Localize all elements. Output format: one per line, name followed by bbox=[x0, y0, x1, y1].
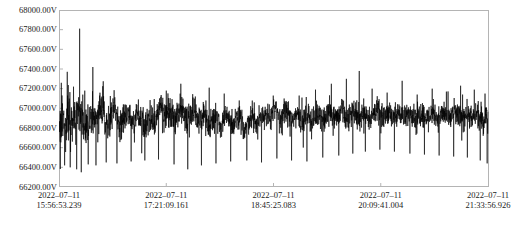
x-axis-tick-label: 2022–07–1118:45:25.083 bbox=[226, 190, 322, 210]
x-axis-tick-date: 2022–07–11 bbox=[226, 190, 322, 200]
y-axis-tick-label: 67400.00V bbox=[0, 65, 57, 74]
plot-frame bbox=[60, 11, 489, 187]
y-axis-tick-label: 67200.00V bbox=[0, 84, 57, 93]
voltage-chart: 66200.00V66400.00V66600.00V66800.00V6700… bbox=[0, 0, 512, 225]
plot-svg bbox=[59, 10, 489, 187]
y-axis-tick-label: 67600.00V bbox=[0, 45, 57, 54]
x-axis-tick-date: 2022–07–11 bbox=[11, 190, 107, 200]
y-axis-tick-label: 67000.00V bbox=[0, 104, 57, 113]
x-axis-tick-date: 2022–07–11 bbox=[440, 190, 512, 200]
x-axis-tick-label: 2022–07–1120:09:41.004 bbox=[333, 190, 429, 210]
y-axis-tick-label: 67800.00V bbox=[0, 25, 57, 34]
y-axis-tick-label: 66400.00V bbox=[0, 163, 57, 172]
x-axis-tick-label: 2022–07–1121:33:56.926 bbox=[440, 190, 512, 210]
data-series-line bbox=[59, 29, 488, 173]
y-axis-tick-label: 68000.00V bbox=[0, 6, 57, 15]
x-axis-tick-label: 2022–07–1115:56:53.239 bbox=[11, 190, 107, 210]
x-axis-tick-date: 2022–07–11 bbox=[333, 190, 429, 200]
x-axis-tick-label: 2022–07–1117:21:09.161 bbox=[118, 190, 214, 210]
x-axis-tick-time: 17:21:09.161 bbox=[118, 200, 214, 210]
plot-area[interactable] bbox=[59, 10, 489, 187]
y-axis-tick-label: 66800.00V bbox=[0, 124, 57, 133]
x-axis-tick-time: 20:09:41.004 bbox=[333, 200, 429, 210]
x-axis-tick-date: 2022–07–11 bbox=[118, 190, 214, 200]
x-axis-tick-time: 15:56:53.239 bbox=[11, 200, 107, 210]
x-axis-tick-time: 18:45:25.083 bbox=[226, 200, 322, 210]
y-axis-tick-label: 66600.00V bbox=[0, 143, 57, 152]
x-axis-tick-time: 21:33:56.926 bbox=[440, 200, 512, 210]
